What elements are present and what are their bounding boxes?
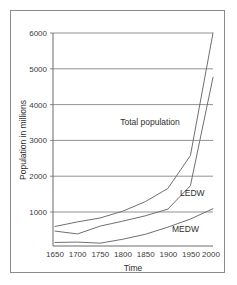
- y-tick-label-1000: 1000: [29, 208, 47, 217]
- x-tick-label-1750: 1750: [91, 250, 109, 259]
- series-line-ledw: [55, 77, 213, 234]
- x-tick-labels: 1650 1700 1750 1800 1850 1900 1950 2000: [46, 250, 220, 259]
- y-tick-labels: 6000 5000 4000 3000 2000 1000: [29, 29, 47, 217]
- y-tick-label-2000: 2000: [29, 172, 47, 181]
- y-axis-title: Population in millions: [18, 100, 28, 180]
- x-tick-label-1900: 1900: [160, 250, 178, 259]
- x-tick-label-1700: 1700: [69, 250, 87, 259]
- y-tick-label-5000: 5000: [29, 65, 47, 74]
- series-label-ledw: LEDW: [180, 188, 205, 198]
- y-tick-label-6000: 6000: [29, 29, 47, 38]
- y-tick-label-3000: 3000: [29, 136, 47, 145]
- axes: [50, 33, 213, 246]
- x-axis-title: Time: [124, 263, 143, 273]
- x-tick-label-1950: 1950: [182, 250, 200, 259]
- population-line-chart: 6000 5000 4000 3000 2000 1000 1650 1700 …: [0, 0, 237, 285]
- x-tick-label-1850: 1850: [137, 250, 155, 259]
- x-tick-label-1650: 1650: [46, 250, 64, 259]
- y-tick-label-4000: 4000: [29, 101, 47, 110]
- series-label-total-population: Total population: [120, 117, 180, 127]
- series-label-medw: MEDW: [172, 224, 199, 234]
- x-tick-label-2000: 2000: [202, 250, 220, 259]
- series-annotations: Total population LEDW MEDW: [120, 117, 204, 234]
- x-tick-label-1800: 1800: [114, 250, 132, 259]
